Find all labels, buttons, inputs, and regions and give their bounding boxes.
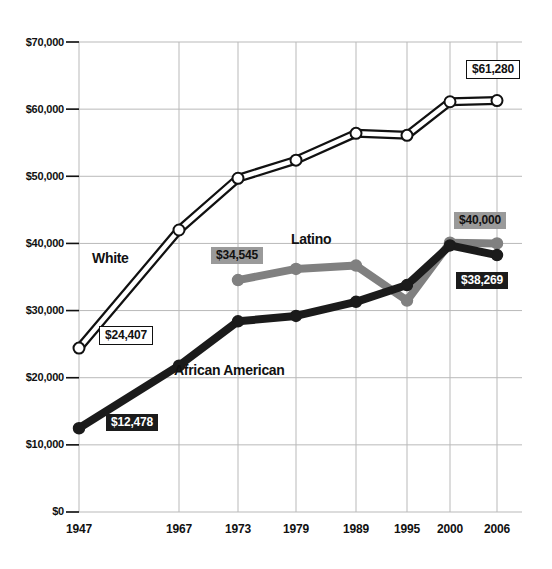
data-point [351, 128, 362, 139]
series-label-white: White [92, 250, 129, 266]
x-tick-1989: 1989 [332, 522, 380, 536]
y-tick-50000: $50,000 [2, 170, 64, 182]
y-tick-70000: $70,000 [2, 36, 64, 48]
y-tick-20000: $20,000 [2, 371, 64, 383]
x-tick-2000: 2000 [426, 522, 474, 536]
data-point [291, 310, 302, 321]
data-point [351, 260, 362, 271]
y-tick-60000: $60,000 [2, 103, 64, 115]
series-label-latino: Latino [291, 231, 331, 247]
data-point [402, 295, 413, 306]
data-point [233, 316, 244, 327]
series-label-african-american: African American [174, 362, 285, 378]
data-point [492, 250, 503, 261]
data-point [74, 423, 85, 434]
income-line-chart: $70,000 $60,000 $50,000 $40,000 $30,000 … [0, 0, 552, 569]
x-tick-2006: 2006 [473, 522, 521, 536]
data-point [74, 343, 85, 354]
data-point [174, 225, 185, 236]
x-tick-1973: 1973 [214, 522, 262, 536]
y-tick-0: $0 [2, 505, 64, 517]
y-tick-10000: $10,000 [2, 438, 64, 450]
data-point [402, 130, 413, 141]
data-point [291, 155, 302, 166]
value-label-black-end: $38,269 [456, 272, 508, 289]
value-label-white-start: $24,407 [99, 326, 153, 345]
data-point [233, 275, 244, 286]
value-label-black-start: $12,478 [106, 414, 158, 431]
x-tick-1967: 1967 [155, 522, 203, 536]
data-point [492, 95, 503, 106]
x-tick-1979: 1979 [272, 522, 320, 536]
data-point [233, 173, 244, 184]
y-tick-40000: $40,000 [2, 237, 64, 249]
value-label-latino-end: $40,000 [454, 212, 506, 229]
x-tick-1947: 1947 [55, 522, 103, 536]
value-label-white-end: $61,280 [466, 60, 520, 79]
data-point [445, 240, 456, 251]
value-label-latino-start: $34,545 [211, 247, 263, 264]
data-point [291, 263, 302, 274]
data-point [351, 296, 362, 307]
y-tick-30000: $30,000 [2, 304, 64, 316]
data-point [445, 96, 456, 107]
data-point [402, 280, 413, 291]
x-tick-1995: 1995 [383, 522, 431, 536]
data-point [492, 238, 503, 249]
